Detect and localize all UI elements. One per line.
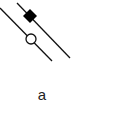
open-circle-icon: [26, 34, 36, 44]
caption-label: a: [35, 86, 49, 103]
right-line: [17, 3, 70, 58]
diagram-canvas: [0, 0, 121, 113]
